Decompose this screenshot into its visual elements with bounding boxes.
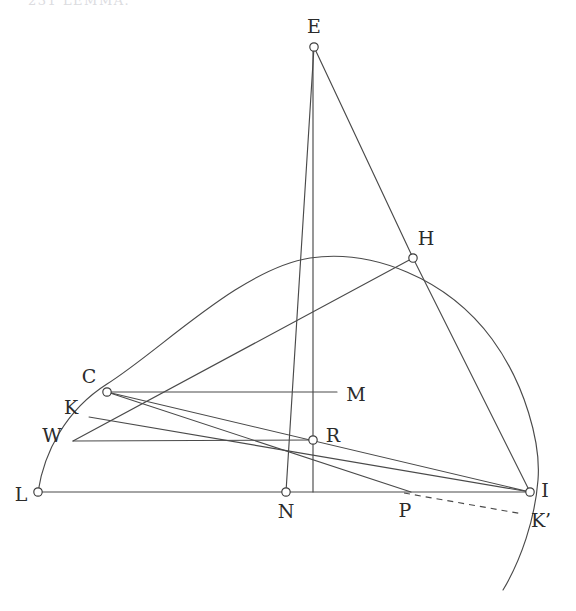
- vertex-markers-group: [34, 43, 534, 496]
- vertex-marker-E: [310, 43, 318, 51]
- point-label-N: N: [278, 500, 295, 522]
- segment-E-H: [314, 47, 413, 258]
- arcs-group: [38, 256, 538, 590]
- vertex-marker-N: [282, 488, 290, 496]
- vertex-marker-L: [34, 488, 42, 496]
- segment-C-P: [107, 392, 411, 492]
- segment-C-I: [107, 392, 530, 492]
- point-label-K: K: [64, 396, 79, 418]
- point-label-R: R: [326, 424, 341, 446]
- geometry-figure-root: 231 LEMMA.: [0, 0, 576, 611]
- vertex-marker-H: [409, 254, 417, 262]
- segments-group: [38, 47, 530, 514]
- point-label-P: P: [399, 499, 412, 521]
- point-label-L: L: [15, 483, 28, 505]
- vertex-marker-I: [526, 488, 534, 496]
- point-label-W: W: [42, 424, 62, 446]
- vertex-marker-R: [309, 436, 317, 444]
- segment-K-I: [89, 417, 530, 492]
- segment-P-Kprime-dashed: [404, 493, 523, 514]
- segment-E-N: [286, 47, 314, 492]
- arc-main-curve: [38, 256, 538, 590]
- point-label-I: I: [541, 479, 549, 501]
- point-label-M: M: [346, 383, 365, 405]
- point-label-H: H: [418, 227, 435, 249]
- point-label-E: E: [307, 15, 321, 37]
- segment-W-R-horizontal: [73, 440, 313, 441]
- vertex-marker-C: [103, 388, 111, 396]
- point-label-C: C: [82, 365, 97, 387]
- geometry-diagram-canvas: E H C K W M R L N P I K’: [0, 0, 576, 611]
- segment-H-I: [413, 258, 530, 492]
- point-label-K-prime: K’: [531, 509, 551, 531]
- point-labels-group: E H C K W M R L N P I K’: [15, 15, 551, 531]
